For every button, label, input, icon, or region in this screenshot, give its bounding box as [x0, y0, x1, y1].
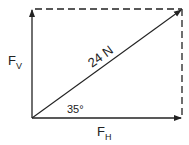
- angle-label: 35°: [67, 103, 84, 115]
- vertical-component-label: FV: [8, 53, 22, 71]
- horizontal-component-label: FH: [97, 124, 111, 142]
- force-diagram: FV FH 24 N 35°: [0, 0, 189, 145]
- resultant-arrow: [32, 10, 181, 118]
- resultant-label: 24 N: [85, 42, 116, 70]
